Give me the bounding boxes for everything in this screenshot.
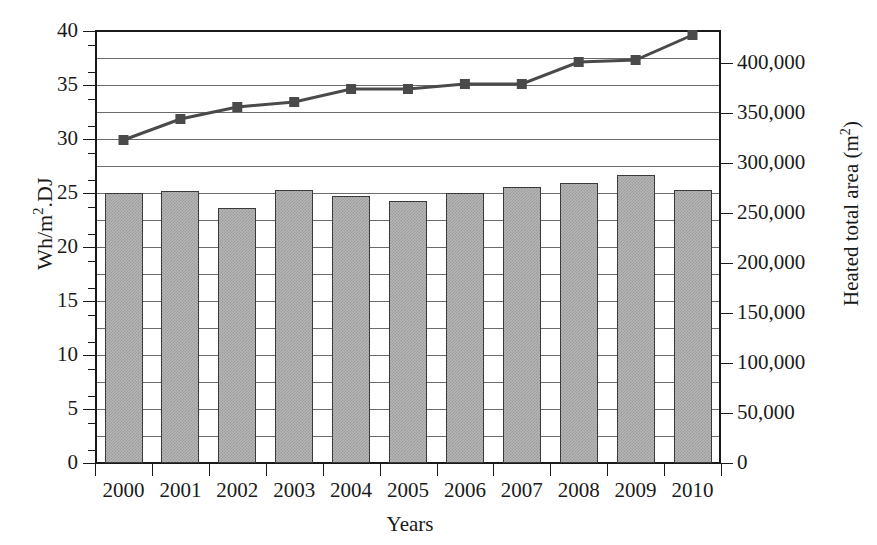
x-axis-tick-mark (437, 463, 438, 476)
line-marker-2001 (175, 114, 185, 124)
y-axis-right-title: Heated total area (m2) (837, 64, 864, 364)
x-axis-tick-mark (266, 463, 267, 476)
x-axis-tick-mark (209, 463, 210, 476)
line-marker-2010 (688, 30, 698, 40)
line-marker-2005 (403, 84, 413, 94)
x-axis-label-2010: 2010 (653, 478, 733, 503)
x-axis-tick-mark (721, 463, 722, 476)
line-marker-2009 (631, 55, 641, 65)
line-marker-2000 (119, 135, 129, 145)
x-axis-tick-mark (664, 463, 665, 476)
chart-canvas: 0510152025303540 050,000100,000150,00020… (0, 0, 877, 545)
y-axis-left-title: Wh/m2.DJ (30, 94, 57, 354)
x-axis-tick-mark (323, 463, 324, 476)
x-axis-tick-mark (95, 463, 96, 476)
x-axis-tick-mark (550, 463, 551, 476)
x-axis-tick-mark (152, 463, 153, 476)
x-axis-tick-mark (607, 463, 608, 476)
line-marker-2007 (517, 79, 527, 89)
line-series-layer (0, 0, 877, 545)
x-axis-title: Years (0, 512, 820, 537)
line-marker-2008 (574, 57, 584, 67)
line-marker-2004 (346, 84, 356, 94)
line-marker-2006 (460, 79, 470, 89)
x-axis-tick-mark (380, 463, 381, 476)
line-marker-2002 (232, 102, 242, 112)
x-axis-tick-mark (493, 463, 494, 476)
line-marker-2003 (289, 97, 299, 107)
